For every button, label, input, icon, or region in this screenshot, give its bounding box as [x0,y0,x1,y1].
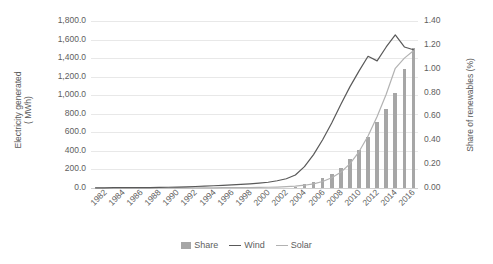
legend-label-wind: Wind [244,240,265,250]
y-axis-right-tick-label: 1.00 [424,64,484,73]
legend-label-solar: Solar [291,240,312,250]
y-axis-left-tick-label: 600.0 [26,127,86,136]
legend-item-wind: Wind [229,240,265,250]
y-axis-right-tick-label: 0.00 [424,183,484,192]
y-axis-left-tick-label: 1,000.0 [26,90,86,99]
y-axis-right-tick-label: 1.40 [424,16,484,25]
y-axis-left-title: Electricity generated ( MWh) [13,40,33,180]
y-axis-right-tick-label: 1.20 [424,40,484,49]
line-swatch-icon [229,245,241,246]
legend-label-share: Share [194,240,218,250]
line-series-wind [96,35,414,188]
line-series-group [91,21,418,188]
y-axis-left-tick-label: 1,400.0 [26,53,86,62]
bar-swatch-icon [181,242,191,249]
y-axis-left-tick-label: 800.0 [26,109,86,118]
y-axis-right-tick-label: 0.60 [424,111,484,120]
plot-area: 0.0200.0400.0600.0800.01,000.01,200.01,4… [91,21,418,188]
y-axis-right-title: Share of renewables (%) [465,35,475,175]
x-axis-ticks: 1982198419861988199019921994199619982000… [91,190,418,230]
y-axis-left-tick-label: 200.0 [26,164,86,173]
chart-legend: Share Wind Solar [0,240,493,250]
y-axis-left-tick-label: 1,800.0 [26,16,86,25]
y-axis-right-tick-label: 0.40 [424,135,484,144]
y-axis-left-tick-label: 0.0 [26,183,86,192]
line-swatch-icon [276,245,288,246]
y-axis-left-tick-label: 1,600.0 [26,35,86,44]
legend-item-share: Share [181,240,218,250]
chart-container: Electricity generated ( MWh) Share of re… [0,0,493,264]
legend-item-solar: Solar [276,240,312,250]
line-series-solar [96,51,414,188]
y-axis-left-tick-label: 1,200.0 [26,72,86,81]
y-axis-right-tick-label: 0.80 [424,88,484,97]
y-axis-right-tick-label: 0.20 [424,159,484,168]
y-axis-left-tick-label: 400.0 [26,146,86,155]
